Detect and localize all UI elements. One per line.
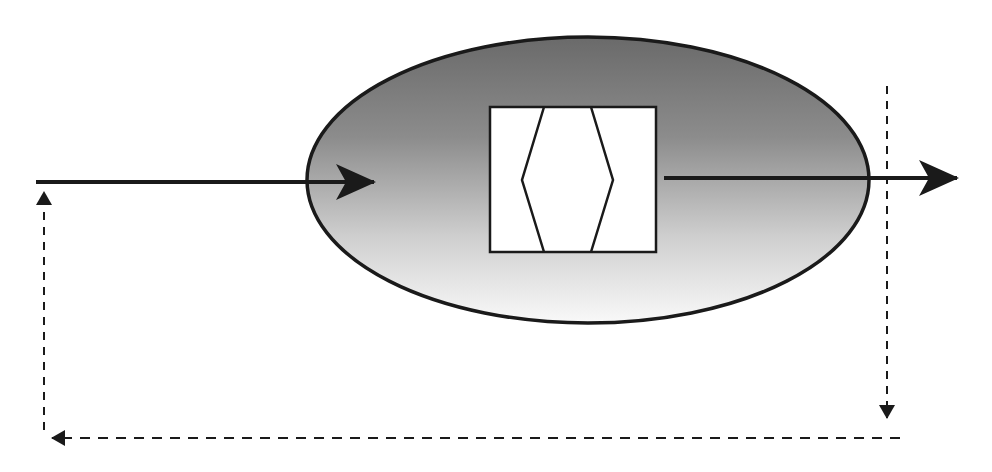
inner-box xyxy=(490,107,656,252)
diagram-canvas xyxy=(0,0,992,472)
diagram-svg xyxy=(0,0,992,472)
